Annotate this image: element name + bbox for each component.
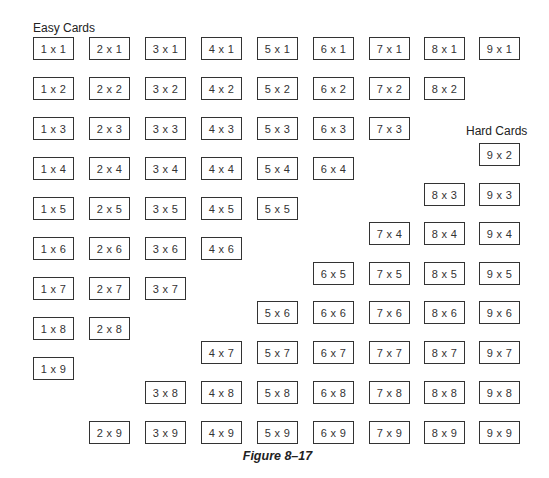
flash-card: 7 x 3 <box>369 117 410 140</box>
flash-card: 2 x 1 <box>89 37 130 60</box>
flash-card: 8 x 4 <box>424 222 465 245</box>
flash-card: 7 x 4 <box>369 222 410 245</box>
flash-card: 5 x 3 <box>257 117 298 140</box>
flash-card: 6 x 6 <box>313 301 354 324</box>
flash-card: 4 x 1 <box>201 37 242 60</box>
flash-card: 8 x 3 <box>424 183 465 206</box>
hard-cards-label: Hard Cards <box>466 124 527 138</box>
flash-card: 7 x 2 <box>369 77 410 100</box>
flash-card: 6 x 5 <box>313 262 354 285</box>
flash-card: 3 x 9 <box>145 421 186 444</box>
flash-card: 3 x 3 <box>145 117 186 140</box>
flash-card: 4 x 7 <box>201 341 242 364</box>
flash-card: 5 x 9 <box>257 421 298 444</box>
easy-cards-label: Easy Cards <box>33 21 95 35</box>
flash-card: 1 x 6 <box>33 237 74 260</box>
flash-card: 9 x 3 <box>479 183 520 206</box>
flash-card: 4 x 2 <box>201 77 242 100</box>
flash-card: 7 x 9 <box>369 421 410 444</box>
flash-card: 8 x 2 <box>424 77 465 100</box>
flash-card: 4 x 5 <box>201 197 242 220</box>
flash-card: 6 x 7 <box>313 341 354 364</box>
flash-card: 5 x 1 <box>257 37 298 60</box>
flash-card: 1 x 2 <box>33 77 74 100</box>
flash-card: 3 x 2 <box>145 77 186 100</box>
flash-card: 4 x 8 <box>201 381 242 404</box>
flash-card: 9 x 9 <box>479 421 520 444</box>
flash-card: 9 x 6 <box>479 301 520 324</box>
flash-card: 2 x 4 <box>89 157 130 180</box>
flash-card: 9 x 4 <box>479 222 520 245</box>
flash-card: 2 x 2 <box>89 77 130 100</box>
flash-card: 5 x 8 <box>257 381 298 404</box>
flash-card: 6 x 8 <box>313 381 354 404</box>
flash-card: 3 x 5 <box>145 197 186 220</box>
flash-card: 1 x 1 <box>33 37 74 60</box>
flash-card: 8 x 1 <box>424 37 465 60</box>
flash-card: 1 x 9 <box>33 357 74 380</box>
flash-card: 7 x 5 <box>369 262 410 285</box>
flash-card: 2 x 7 <box>89 277 130 300</box>
flash-card: 1 x 4 <box>33 157 74 180</box>
flash-card: 3 x 7 <box>145 277 186 300</box>
flash-card: 8 x 8 <box>424 381 465 404</box>
flash-card: 1 x 3 <box>33 117 74 140</box>
figure-caption: Figure 8–17 <box>0 449 549 463</box>
flash-card: 3 x 6 <box>145 237 186 260</box>
flash-card: 6 x 9 <box>313 421 354 444</box>
flash-card: 4 x 6 <box>201 237 242 260</box>
flash-card: 8 x 9 <box>424 421 465 444</box>
flash-card: 5 x 6 <box>257 301 298 324</box>
flash-card: 6 x 4 <box>313 157 354 180</box>
flash-card: 6 x 2 <box>313 77 354 100</box>
flash-card: 7 x 7 <box>369 341 410 364</box>
flash-card: 8 x 5 <box>424 262 465 285</box>
flash-card: 2 x 8 <box>89 317 130 340</box>
flash-card: 7 x 8 <box>369 381 410 404</box>
flash-card: 8 x 7 <box>424 341 465 364</box>
flash-card: 6 x 3 <box>313 117 354 140</box>
flash-card: 8 x 6 <box>424 301 465 324</box>
flash-card: 5 x 7 <box>257 341 298 364</box>
flash-card: 1 x 5 <box>33 197 74 220</box>
flash-card: 3 x 4 <box>145 157 186 180</box>
flash-card: 4 x 4 <box>201 157 242 180</box>
flash-card: 9 x 1 <box>479 37 520 60</box>
flash-card: 2 x 5 <box>89 197 130 220</box>
flash-card: 5 x 2 <box>257 77 298 100</box>
flash-card: 2 x 9 <box>89 421 130 444</box>
flash-card: 9 x 7 <box>479 341 520 364</box>
flash-card: 3 x 1 <box>145 37 186 60</box>
flash-card: 9 x 2 <box>479 143 520 166</box>
flash-card: 7 x 6 <box>369 301 410 324</box>
flash-card: 3 x 8 <box>145 381 186 404</box>
flash-card: 6 x 1 <box>313 37 354 60</box>
flash-card: 4 x 9 <box>201 421 242 444</box>
flash-card: 9 x 8 <box>479 381 520 404</box>
flash-card: 1 x 7 <box>33 277 74 300</box>
flash-card: 1 x 8 <box>33 317 74 340</box>
flash-card: 2 x 3 <box>89 117 130 140</box>
flash-card: 5 x 5 <box>257 197 298 220</box>
flash-card: 7 x 1 <box>369 37 410 60</box>
flash-card: 2 x 6 <box>89 237 130 260</box>
flash-card: 9 x 5 <box>479 262 520 285</box>
flash-card: 5 x 4 <box>257 157 298 180</box>
flash-card: 4 x 3 <box>201 117 242 140</box>
